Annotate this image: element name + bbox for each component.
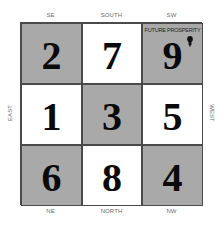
- cell-number: 4: [163, 158, 183, 198]
- direction-label-east: EAST: [5, 103, 15, 123]
- cell-number: 6: [42, 158, 62, 198]
- direction-label-ne: NE: [20, 208, 81, 214]
- cell-number: 5: [163, 97, 183, 137]
- cell-number: 8: [102, 158, 122, 198]
- direction-label-sw: SW: [141, 12, 202, 18]
- direction-label-nw: NW: [141, 208, 202, 214]
- cell-number: 2: [42, 36, 62, 76]
- cell-number: 9: [163, 36, 183, 76]
- cell-center: 3: [82, 84, 142, 145]
- cell-sw: FUTURE PROSPERITY 9: [142, 23, 203, 84]
- bagua-grid: 2 7 FUTURE PROSPERITY 9 1 3 5 6 8 4: [20, 22, 202, 205]
- direction-label-north: NORTH: [81, 208, 142, 214]
- cell-east: 1: [21, 84, 82, 145]
- cell-ne: 6: [21, 145, 82, 206]
- cell-north: 8: [82, 145, 142, 206]
- future-prosperity-label: FUTURE PROSPERITY: [143, 27, 202, 33]
- cell-nw: 4: [142, 145, 203, 206]
- cell-south: 7: [82, 23, 142, 84]
- cell-number: 7: [102, 36, 122, 76]
- light-bulb-icon: [187, 36, 193, 47]
- direction-label-se: SE: [20, 12, 81, 18]
- cell-number: 3: [102, 97, 122, 137]
- cell-se: 2: [21, 23, 82, 84]
- direction-label-west: WEST: [207, 103, 217, 123]
- cell-west: 5: [142, 84, 203, 145]
- direction-label-south: SOUTH: [81, 12, 142, 18]
- cell-number: 1: [42, 97, 62, 137]
